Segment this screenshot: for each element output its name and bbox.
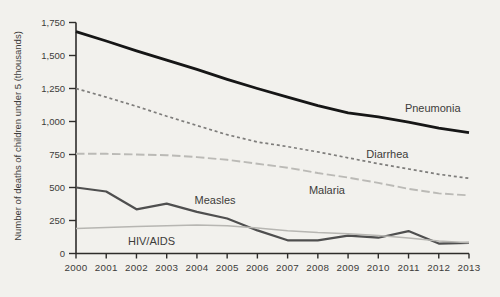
line-chart: Number of deaths of children under 5 (th… bbox=[0, 0, 500, 297]
x-tick-label: 2010 bbox=[367, 262, 390, 273]
x-tick-label: 2013 bbox=[458, 262, 481, 273]
x-tick-label: 2000 bbox=[65, 262, 88, 273]
chart-figure: Number of deaths of children under 5 (th… bbox=[0, 0, 500, 297]
y-axis-title: Number of deaths of children under 5 (th… bbox=[12, 31, 23, 241]
x-tick-label: 2007 bbox=[276, 262, 299, 273]
x-tick-label: 2001 bbox=[95, 262, 118, 273]
series-line-pneumonia bbox=[76, 32, 469, 133]
series-line-malaria bbox=[76, 154, 469, 196]
x-tick-label: 2008 bbox=[306, 262, 329, 273]
y-tick-label: 0 bbox=[60, 248, 65, 259]
y-tick-label: 1,000 bbox=[41, 116, 65, 127]
x-tick-label: 2005 bbox=[216, 262, 239, 273]
series-label-diarrhea: Diarrhea bbox=[366, 148, 409, 160]
x-tick-label: 2011 bbox=[397, 262, 419, 273]
x-tick-label: 2006 bbox=[246, 262, 269, 273]
series-label-pneumonia: Pneumonia bbox=[405, 102, 462, 114]
y-tick-label: 250 bbox=[49, 215, 65, 226]
y-tick-label: 1,750 bbox=[41, 17, 65, 28]
series-label-measles: Measles bbox=[195, 194, 236, 206]
series-label-malaria: Malaria bbox=[309, 184, 346, 196]
x-tick-label: 2012 bbox=[427, 262, 450, 273]
y-tick-label: 1,250 bbox=[41, 83, 65, 94]
series-label-hiv-aids: HIV/AIDS bbox=[128, 235, 175, 247]
x-tick-label: 2002 bbox=[125, 262, 148, 273]
y-tick-label: 1,500 bbox=[41, 50, 65, 61]
y-tick-label: 750 bbox=[49, 149, 65, 160]
y-tick-label: 500 bbox=[49, 182, 65, 193]
x-tick-label: 2009 bbox=[337, 262, 360, 273]
x-tick-label: 2003 bbox=[155, 262, 178, 273]
x-tick-label: 2004 bbox=[185, 262, 208, 273]
